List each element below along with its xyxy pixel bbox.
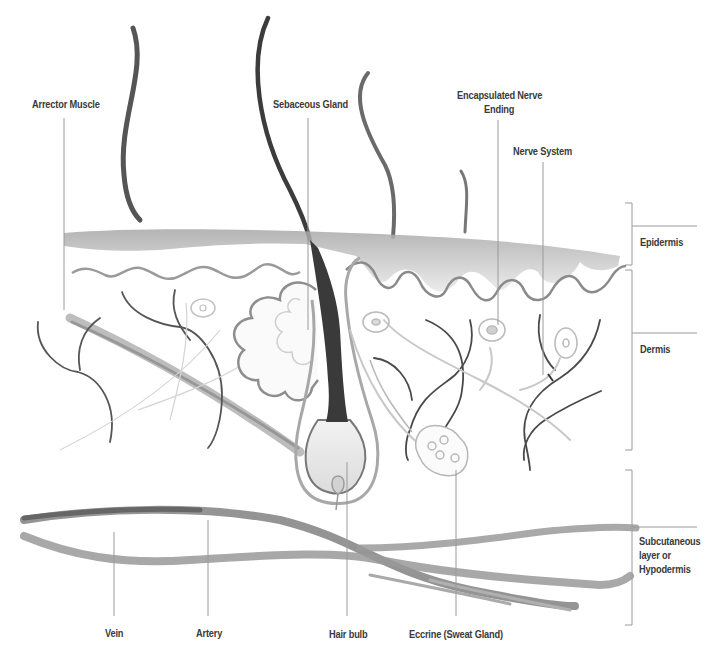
skin-diagram: Arrector Muscle Sebaceous Gland Encapsul… [0, 0, 720, 661]
subcutaneous-vessels [24, 509, 636, 610]
label-nerve-system: Nerve System [513, 145, 572, 158]
label-sebaceous-gland: Sebaceous Gland [273, 98, 348, 111]
label-encapsulated-nerve-ending-line2: Ending [484, 103, 514, 116]
label-dermis: Dermis [640, 343, 670, 356]
label-eccrine-sweat-gland: Eccrine (Sweat Gland) [409, 628, 503, 641]
surface-hairs [123, 18, 467, 240]
label-subcutaneous-line3: Hypodermis [639, 563, 691, 576]
label-vein: Vein [105, 627, 123, 640]
label-subcutaneous-line1: Subcutaneous [639, 535, 701, 548]
label-arrector-muscle: Arrector Muscle [32, 98, 100, 111]
label-hair-bulb: Hair bulb [329, 628, 367, 641]
label-subcutaneous-line2: layer or [639, 549, 671, 562]
right-dermis-fibers [374, 315, 601, 470]
skin-illustration [0, 0, 720, 661]
nerve-ending-left [191, 299, 215, 317]
label-artery: Artery [196, 627, 222, 640]
label-epidermis: Epidermis [640, 236, 683, 249]
label-encapsulated-nerve-ending-line1: Encapsulated Nerve [457, 89, 542, 102]
sebaceous-gland [234, 283, 318, 401]
